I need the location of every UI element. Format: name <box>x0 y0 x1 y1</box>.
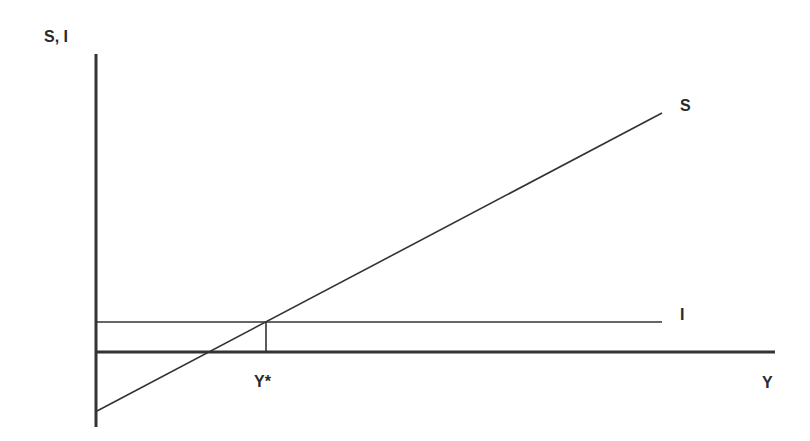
y-axis-label: S, I <box>44 29 68 45</box>
savings-line <box>97 113 662 411</box>
investment-curve-label: I <box>680 307 684 323</box>
equilibrium-label: Y* <box>254 374 271 390</box>
savings-curve-label: S <box>680 98 691 114</box>
x-axis-label: Y <box>762 375 773 391</box>
diagram-canvas <box>0 0 810 441</box>
